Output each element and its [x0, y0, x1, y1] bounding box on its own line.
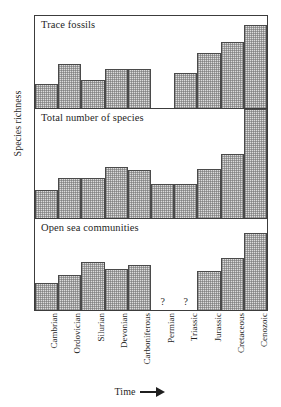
- x-tick-permian: Permian: [151, 313, 174, 385]
- bar-opensea-devonian: [105, 269, 128, 310]
- bar-column-jurassic: [197, 16, 220, 108]
- bar-trace-carboniferous: [128, 69, 151, 108]
- bar-trace-ordovician: [58, 64, 81, 108]
- x-axis-tick-labels: Cambrian Ordovician Silurian Devonian Ca…: [34, 313, 268, 385]
- x-axis-title-group: Time: [0, 386, 281, 397]
- bar-column-permian: [151, 16, 174, 108]
- x-tick-triassic: Triassic: [174, 313, 197, 385]
- bar-column-triassic: [174, 16, 197, 108]
- bar-column-ordovician: [58, 109, 81, 218]
- bar-trace-cenozoic: [244, 25, 267, 108]
- bar-opensea-silurian: [81, 262, 104, 310]
- bar-column-permian: ?: [151, 219, 174, 310]
- x-axis-title: Time: [115, 386, 136, 397]
- bar-column-cenozoic: [244, 16, 267, 108]
- x-tick-jurassic: Jurassic: [198, 313, 221, 385]
- bar-trace-cambrian: [35, 84, 58, 108]
- panel-open-sea-communities: Open sea communities ? ?: [35, 219, 267, 310]
- x-tick-label: Cenozoic: [259, 313, 269, 347]
- panel-title-total-species: Total number of species: [41, 112, 144, 123]
- panel-total-species: Total number of species: [35, 109, 267, 219]
- bar-column-jurassic: [197, 109, 220, 218]
- x-tick-devonian: Devonian: [104, 313, 127, 385]
- question-mark-triassic: ?: [174, 296, 197, 307]
- bar-column-cenozoic: [244, 109, 267, 218]
- bar-opensea-cretaceous: [221, 258, 244, 310]
- bar-total-cenozoic: [244, 109, 267, 218]
- bar-trace-triassic: [174, 73, 197, 108]
- bar-column-jurassic: [197, 219, 220, 310]
- bar-column-triassic: [174, 109, 197, 218]
- bar-opensea-jurassic: [197, 271, 220, 310]
- panel-trace-fossils: Trace fossils: [35, 16, 267, 109]
- bar-total-ordovician: [58, 178, 81, 218]
- species-richness-figure: Species richness Trace fossils Total num…: [0, 0, 281, 407]
- bar-column-cambrian: [35, 109, 58, 218]
- bar-trace-jurassic: [197, 53, 220, 108]
- panel-title-trace-fossils: Trace fossils: [41, 19, 95, 30]
- bar-total-carboniferous: [128, 170, 151, 218]
- x-tick-silurian: Silurian: [81, 313, 104, 385]
- bar-trace-cretaceous: [221, 42, 244, 108]
- bar-total-silurian: [81, 178, 104, 218]
- bar-total-cambrian: [35, 190, 58, 218]
- bar-column-devonian: [105, 109, 128, 218]
- x-tick-cambrian: Cambrian: [34, 313, 57, 385]
- bar-opensea-cambrian: [35, 283, 58, 310]
- bar-column-devonian: [105, 16, 128, 108]
- bar-total-cretaceous: [221, 154, 244, 218]
- bar-opensea-carboniferous: [128, 265, 151, 311]
- bar-total-triassic: [174, 184, 197, 218]
- y-axis-label: Species richness: [12, 69, 23, 179]
- bar-opensea-ordovician: [58, 275, 81, 310]
- bar-trace-silurian: [81, 80, 104, 108]
- bar-total-permian: [151, 184, 174, 218]
- bar-total-jurassic: [197, 169, 220, 218]
- question-mark-permian: ?: [151, 296, 174, 307]
- bar-column-cenozoic: [244, 219, 267, 310]
- bar-group-total-species: [35, 109, 267, 218]
- bar-column-permian: [151, 109, 174, 218]
- bar-opensea-cenozoic: [244, 233, 267, 310]
- bar-column-carboniferous: [128, 109, 151, 218]
- x-tick-carboniferous: Carboniferous: [128, 313, 151, 385]
- bar-total-devonian: [105, 167, 128, 218]
- x-tick-ordovician: Ordovician: [57, 313, 80, 385]
- time-arrow-icon: [140, 387, 166, 397]
- bar-column-triassic: ?: [174, 219, 197, 310]
- bar-trace-devonian: [105, 69, 128, 108]
- x-tick-cenozoic: Cenozoic: [245, 313, 268, 385]
- bar-column-carboniferous: [128, 16, 151, 108]
- panel-stack: Trace fossils Total number of species: [34, 15, 268, 311]
- bar-column-cretaceous: [221, 16, 244, 108]
- bar-column-silurian: [81, 109, 104, 218]
- bar-column-cretaceous: [221, 219, 244, 310]
- panel-title-open-sea-communities: Open sea communities: [41, 222, 139, 233]
- bar-column-cretaceous: [221, 109, 244, 218]
- x-tick-cretaceous: Cretaceous: [221, 313, 244, 385]
